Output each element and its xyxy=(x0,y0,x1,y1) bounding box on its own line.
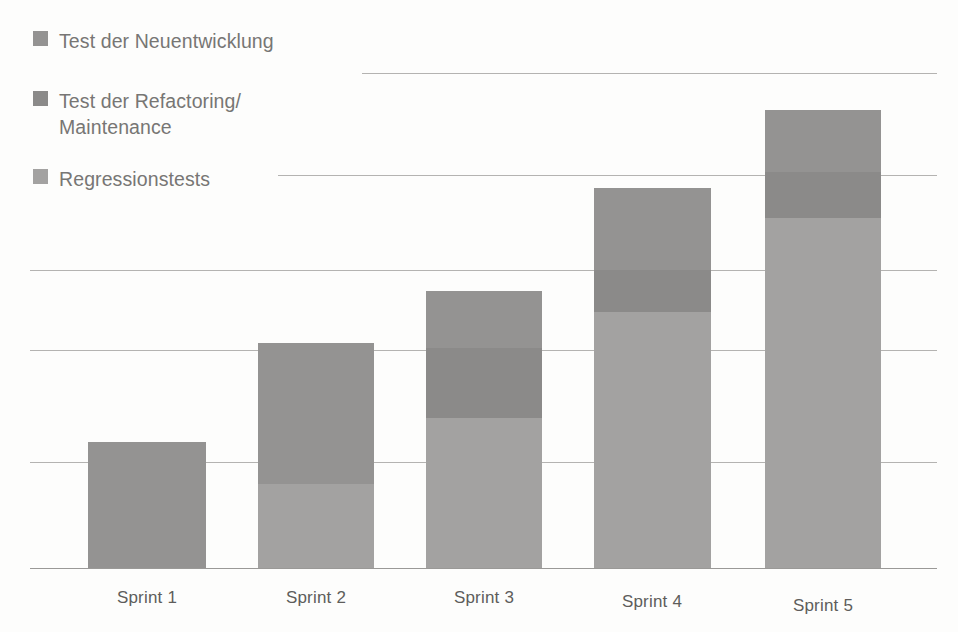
bar-segment-neuentwicklung xyxy=(765,110,881,172)
x-axis-label-sprint-3: Sprint 3 xyxy=(424,588,544,608)
bar-segment-refactoring xyxy=(594,270,711,312)
x-axis-label-sprint-4: Sprint 4 xyxy=(592,592,712,612)
x-axis-label-sprint-5: Sprint 5 xyxy=(763,596,883,616)
gridline-1 xyxy=(362,73,937,74)
x-axis-baseline xyxy=(30,568,937,569)
legend-swatch-refactoring xyxy=(33,91,48,106)
legend-swatch-neuentwicklung xyxy=(33,31,48,46)
bar-segment-regression xyxy=(765,218,881,568)
bar-sprint-5[interactable] xyxy=(765,110,881,568)
x-axis-label-sprint-1: Sprint 1 xyxy=(87,588,207,608)
legend-label-refactoring: Test der Refactoring/ Maintenance xyxy=(59,88,241,140)
legend-item-neuentwicklung[interactable]: Test der Neuentwicklung xyxy=(33,28,274,54)
legend-label-regression: Regressionstests xyxy=(59,166,210,192)
legend-item-refactoring[interactable]: Test der Refactoring/ Maintenance xyxy=(33,88,241,140)
bar-segment-regression xyxy=(594,312,711,568)
legend-label-neuentwicklung: Test der Neuentwicklung xyxy=(59,28,274,54)
chart-canvas: Sprint 1 Sprint 2 Sprint 3 Sprint 4 Spri… xyxy=(0,0,958,632)
bar-segment-neuentwicklung xyxy=(594,188,711,270)
bar-segment-neuentwicklung xyxy=(88,442,206,568)
bar-segment-neuentwicklung xyxy=(258,343,374,484)
bar-segment-regression xyxy=(426,418,542,568)
bar-sprint-2[interactable] xyxy=(258,343,374,568)
bar-sprint-3[interactable] xyxy=(426,291,542,568)
bar-segment-refactoring xyxy=(765,172,881,218)
bar-sprint-4[interactable] xyxy=(594,188,711,568)
bar-segment-neuentwicklung xyxy=(426,291,542,348)
legend-item-regression[interactable]: Regressionstests xyxy=(33,166,210,192)
bar-segment-regression xyxy=(258,484,374,568)
bar-sprint-1[interactable] xyxy=(88,442,206,568)
x-axis-label-sprint-2: Sprint 2 xyxy=(256,588,376,608)
bar-segment-refactoring xyxy=(426,348,542,418)
legend-swatch-regression xyxy=(33,169,48,184)
